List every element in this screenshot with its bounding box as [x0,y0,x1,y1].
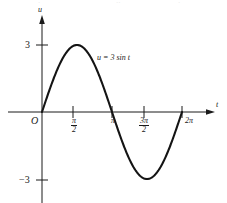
x-tick-label-pi-over-2: π 2 [66,117,82,135]
fraction-denominator: 2 [139,126,149,134]
y-tick-label-3: 3 [25,40,30,50]
fraction-pi-over-2: π 2 [71,117,77,135]
x-tick-label-pi: π [107,117,119,125]
sine-curve-figure: · ·· · u t O 3 − [0,0,227,203]
fraction-denominator: 2 [71,126,77,134]
fraction-3pi-over-2: 3π 2 [139,117,149,135]
curve-equation-label: u = 3 sin t [97,54,130,62]
x-tick-label-3pi-over-2: 3π 2 [134,117,154,135]
u-axis-label: u [38,6,42,14]
x-tick-label-2pi: 2π [185,117,205,125]
y-tick-label-neg3: −3 [19,175,30,185]
t-axis-label: t [216,101,218,109]
origin-label: O [31,116,38,126]
plot-canvas [0,0,227,203]
